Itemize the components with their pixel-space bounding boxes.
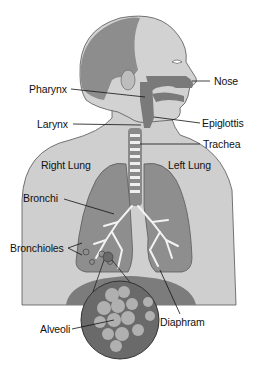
label-alveoli: Alveoli bbox=[40, 324, 70, 335]
label-bronchioles: Bronchioles bbox=[10, 243, 64, 254]
label-epiglottis: Epiglottis bbox=[202, 118, 244, 129]
trachea-rings bbox=[130, 134, 140, 193]
anatomy-illustration bbox=[0, 0, 254, 367]
label-left-lung: Left Lung bbox=[168, 160, 211, 171]
alveoli-source bbox=[103, 252, 113, 262]
label-nose: Nose bbox=[214, 76, 238, 87]
respiratory-diagram: Nose Pharynx Epiglottis Larynx Trachea R… bbox=[0, 0, 254, 367]
label-larynx: Larynx bbox=[37, 119, 68, 130]
label-trachea: Trachea bbox=[203, 139, 240, 150]
label-right-lung: Right Lung bbox=[41, 160, 91, 171]
trachea-tube bbox=[128, 128, 142, 206]
label-pharynx: Pharynx bbox=[29, 84, 67, 95]
label-bronchi: Bronchi bbox=[23, 193, 58, 204]
ear bbox=[121, 70, 135, 90]
label-diaphragm: Diaphram bbox=[160, 317, 205, 328]
